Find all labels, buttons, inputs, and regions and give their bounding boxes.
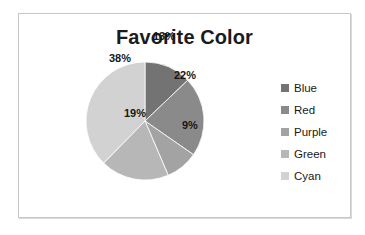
legend-swatch-icon: [281, 106, 289, 114]
slice-label-blue: 13%: [153, 31, 175, 42]
legend-item-label: Cyan: [294, 170, 321, 182]
legend-swatch-icon: [281, 84, 289, 92]
legend-swatch-icon: [281, 172, 289, 180]
legend-swatch-icon: [281, 128, 289, 136]
legend-item-purple[interactable]: Purple: [281, 121, 347, 143]
legend-item-label: Blue: [294, 82, 317, 94]
legend-item-label: Purple: [294, 126, 327, 138]
slice-label-green: 19%: [124, 108, 146, 119]
legend-item-label: Red: [294, 104, 315, 116]
chart-legend: Blue Red Purple Green Cyan: [281, 77, 347, 187]
legend-item-red[interactable]: Red: [281, 99, 347, 121]
slice-label-purple: 9%: [182, 120, 198, 131]
chart-frame: Favorite Color 13% 22% 9% 19% 38% Blue R…: [18, 13, 351, 218]
slice-label-cyan: 38%: [109, 53, 131, 64]
legend-swatch-icon: [281, 150, 289, 158]
legend-item-blue[interactable]: Blue: [281, 77, 347, 99]
slice-label-red: 22%: [174, 70, 196, 81]
legend-item-green[interactable]: Green: [281, 143, 347, 165]
legend-item-label: Green: [294, 148, 326, 160]
legend-item-cyan[interactable]: Cyan: [281, 165, 347, 187]
